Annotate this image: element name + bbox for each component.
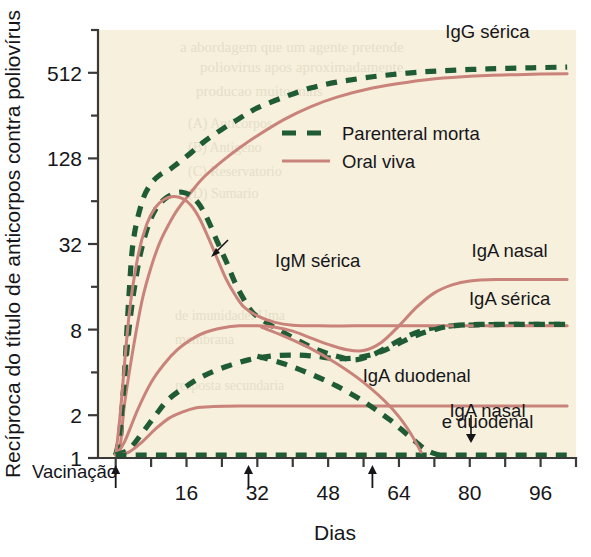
y-tick-label: 512 [47, 62, 82, 85]
dose-arrow-head [368, 465, 377, 474]
legend-label: Parenteral morta [342, 123, 480, 144]
dose-arrow-head [244, 465, 253, 474]
vaccination-caption: Vacinação [32, 461, 117, 482]
curve-annotation: IgM sérica [275, 250, 361, 271]
curve-annotation: e duodenal [442, 411, 534, 432]
x-tick-label: 64 [387, 481, 411, 504]
y-tick-label: 2 [70, 404, 82, 427]
y-tick-label: 32 [59, 233, 82, 256]
chart-page: a abordagem que um agente pretende polio… [0, 0, 591, 557]
ghost-line-2: producao muito mais [196, 83, 323, 99]
curve-annotation: IgG sérica [445, 21, 530, 42]
poliovirus-antibody-chart: a abordagem que um agente pretende polio… [0, 0, 591, 557]
legend-label: Oral viva [342, 151, 416, 172]
x-tick-label: 48 [316, 481, 339, 504]
y-tick-label: 8 [70, 319, 82, 342]
x-axis-title: Dias [314, 521, 356, 544]
ghost-line-4: (B) Antigeno [188, 140, 262, 156]
ghost-line-3: (A) Anticorpos [188, 116, 272, 132]
curve-annotation: IgA nasal [472, 240, 548, 261]
y-tick-label: 128 [47, 147, 82, 170]
ghost-line-0: a abordagem que um agente pretende [180, 39, 404, 55]
x-tick-label: 16 [175, 481, 198, 504]
y-axis-title: Recíproca do título de anticorpos contra… [1, 10, 24, 478]
ghost-line-1: poliovirus apos aproximadamente [200, 59, 404, 75]
curve-annotation: IgA sérica [469, 288, 551, 309]
x-tick-label: 80 [458, 481, 481, 504]
x-tick-label: 96 [529, 481, 552, 504]
curve-annotation: IgA duodenal [363, 365, 471, 386]
